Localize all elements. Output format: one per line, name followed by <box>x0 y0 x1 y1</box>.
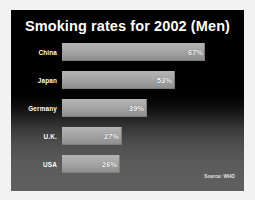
bar-track: 39% <box>62 99 244 117</box>
bar-track: 53% <box>62 71 244 89</box>
bar-value-usa: 26% <box>102 160 117 169</box>
bar-track: 67% <box>62 43 244 61</box>
category-label-japan: Japan <box>11 77 62 84</box>
chart-title: Smoking rates for 2002 (Men) <box>11 18 244 34</box>
bar-value-uk: 27% <box>104 132 119 141</box>
bar-value-china: 67% <box>188 48 203 57</box>
bar-value-germany: 39% <box>129 104 144 113</box>
bar-track: 27% <box>62 127 244 145</box>
bar-row: Japan 53% <box>11 71 244 89</box>
category-label-usa: USA <box>11 161 62 168</box>
bar-value-japan: 53% <box>157 76 172 85</box>
bar-row: China 67% <box>11 43 244 61</box>
bar-china <box>62 43 205 61</box>
bar-row: U.K. 27% <box>11 127 244 145</box>
source-note: Source: WHO <box>204 174 235 179</box>
slide-frame: Smoking rates for 2002 (Men) China 67% J… <box>0 0 255 200</box>
bar-row: Germany 39% <box>11 99 244 117</box>
category-label-china: China <box>11 49 62 56</box>
bar-row: USA 26% <box>11 155 244 173</box>
bar-chart-plot-area: China 67% Japan 53% Germany 39% <box>11 43 244 183</box>
bar-track: 26% <box>62 155 244 173</box>
presentation-slide: Smoking rates for 2002 (Men) China 67% J… <box>11 10 244 191</box>
category-label-germany: Germany <box>11 105 62 112</box>
category-label-uk: U.K. <box>11 133 62 140</box>
